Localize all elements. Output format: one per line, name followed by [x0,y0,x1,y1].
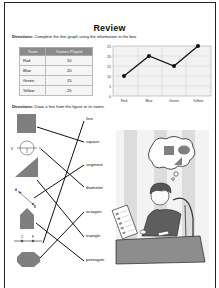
thought-oval [178,146,190,155]
boy-illustration [0,0,219,288]
thought-square [164,146,174,155]
